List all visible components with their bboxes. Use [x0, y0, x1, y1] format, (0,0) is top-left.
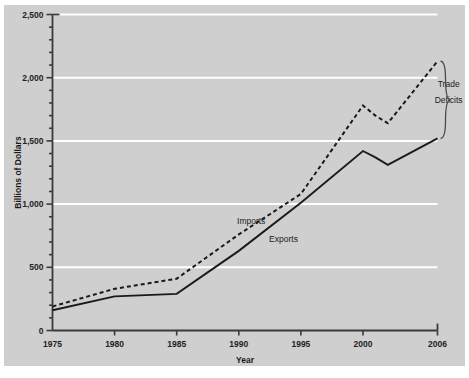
y-tick-label-0: 0	[39, 326, 44, 336]
x-tick-label-1980: 1980	[105, 339, 124, 349]
exports-label: Exports	[269, 234, 298, 244]
trade-deficits-label: Trade	[438, 79, 460, 89]
y-tick-label-1500: 1,500	[22, 136, 44, 146]
x-tick-label-1975: 1975	[43, 339, 62, 349]
y-axis-title: Billions of Dollars	[13, 136, 23, 209]
y-tick-label-2500: 2,500	[22, 10, 44, 20]
chart-figure: 05001,0001,5002,0002,500 197519801985199…	[0, 0, 469, 378]
data-series	[53, 61, 438, 310]
x-tick-label-2006: 2006	[428, 339, 447, 349]
y-tick-label-1000: 1,000	[22, 199, 44, 209]
x-tick-labels: 1975198019851990199520002006	[43, 339, 447, 349]
x-tick-label-2000: 2000	[354, 339, 373, 349]
y-tick-label-2000: 2,000	[22, 73, 44, 83]
x-tick-label-1985: 1985	[167, 339, 186, 349]
axis-lines	[53, 15, 438, 331]
imports-label: Imports	[237, 216, 265, 226]
x-tick-label-1990: 1990	[229, 339, 248, 349]
trade-line-chart: 05001,0001,5002,0002,500 197519801985199…	[0, 0, 469, 378]
x-axis-title: Year	[236, 355, 255, 365]
y-tick-labels: 05001,0001,5002,0002,500	[22, 10, 44, 336]
x-tick-label-1995: 1995	[291, 339, 310, 349]
series-line-imports	[53, 61, 438, 306]
y-tick-label-500: 500	[29, 262, 43, 272]
